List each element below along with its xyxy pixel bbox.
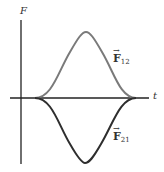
- vector-arrow-icon: →: [113, 47, 120, 55]
- vector-arrow-icon: →: [113, 125, 120, 133]
- f12-label: →F12: [113, 53, 130, 68]
- y-axis-label: F: [20, 6, 27, 16]
- f21-label: →F21: [113, 131, 130, 146]
- x-axis-label: t: [153, 91, 157, 101]
- f21-label-sub: 21: [121, 136, 130, 144]
- plot-canvas: [0, 0, 164, 172]
- f12-label-sub: 12: [121, 58, 130, 66]
- force-time-graph: F t →F12 →F21: [0, 0, 164, 172]
